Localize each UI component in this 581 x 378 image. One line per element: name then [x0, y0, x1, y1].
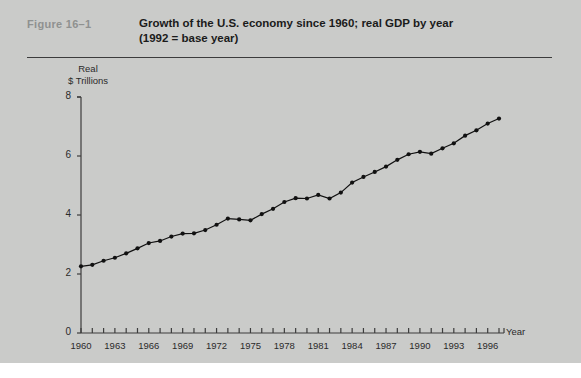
data-point-marker: [135, 246, 139, 250]
data-point-marker: [305, 196, 309, 200]
data-point-marker: [486, 121, 490, 125]
chart-tick-marks: [77, 97, 499, 333]
x-tick-label: 1981: [303, 340, 333, 351]
line-chart-svg: [0, 0, 581, 363]
x-tick-label: 1963: [100, 340, 130, 351]
data-point-marker: [169, 234, 173, 238]
data-point-marker: [113, 256, 117, 260]
data-point-marker: [79, 264, 83, 268]
data-point-marker: [248, 218, 252, 222]
data-point-marker: [282, 200, 286, 204]
figure-panel: Figure 16–1 Growth of the U.S. economy s…: [0, 0, 581, 363]
data-point-marker: [158, 239, 162, 243]
x-tick-label: 1990: [405, 340, 435, 351]
y-tick-label: 2: [55, 267, 71, 278]
x-tick-label: 1996: [473, 340, 503, 351]
data-point-marker: [350, 180, 354, 184]
data-point-marker: [339, 190, 343, 194]
data-point-marker: [90, 263, 94, 267]
x-tick-label: 1987: [371, 340, 401, 351]
x-tick-label: 1978: [269, 340, 299, 351]
data-point-marker: [316, 193, 320, 197]
data-point-marker: [395, 158, 399, 162]
data-point-marker: [294, 196, 298, 200]
page-bottom-margin: [0, 363, 581, 378]
gdp-line: [81, 119, 499, 267]
data-point-marker: [192, 231, 196, 235]
data-point-marker: [463, 134, 467, 138]
data-point-marker: [429, 152, 433, 156]
data-point-marker: [214, 223, 218, 227]
data-point-marker: [181, 231, 185, 235]
data-point-marker: [226, 216, 230, 220]
y-tick-label: 8: [55, 90, 71, 101]
data-point-marker: [384, 165, 388, 169]
data-point-marker: [237, 217, 241, 221]
x-tick-label: 1975: [235, 340, 265, 351]
chart-data-series: [79, 116, 501, 268]
data-point-marker: [373, 170, 377, 174]
data-point-marker: [124, 251, 128, 255]
data-point-marker: [440, 146, 444, 150]
data-point-marker: [260, 212, 264, 216]
y-tick-label: 4: [55, 208, 71, 219]
data-point-marker: [203, 228, 207, 232]
chart-axes: [77, 97, 504, 333]
figure-container: Figure 16–1 Growth of the U.S. economy s…: [0, 0, 581, 378]
y-tick-label: 6: [55, 149, 71, 160]
data-point-marker: [361, 175, 365, 179]
data-point-marker: [407, 152, 411, 156]
chart-plot-area: Real $ Trillions Year 02468 196019631966…: [0, 0, 581, 363]
data-point-marker: [497, 116, 501, 120]
y-tick-label: 0: [55, 326, 71, 337]
data-point-marker: [327, 196, 331, 200]
x-tick-label: 1993: [439, 340, 469, 351]
data-point-marker: [418, 150, 422, 154]
data-point-marker: [271, 207, 275, 211]
data-point-marker: [474, 128, 478, 132]
x-tick-label: 1966: [134, 340, 164, 351]
x-tick-label: 1972: [202, 340, 232, 351]
data-point-marker: [101, 259, 105, 263]
x-tick-label: 1984: [337, 340, 367, 351]
data-point-marker: [452, 141, 456, 145]
x-tick-label: 1960: [66, 340, 96, 351]
x-tick-label: 1969: [168, 340, 198, 351]
data-point-marker: [147, 241, 151, 245]
